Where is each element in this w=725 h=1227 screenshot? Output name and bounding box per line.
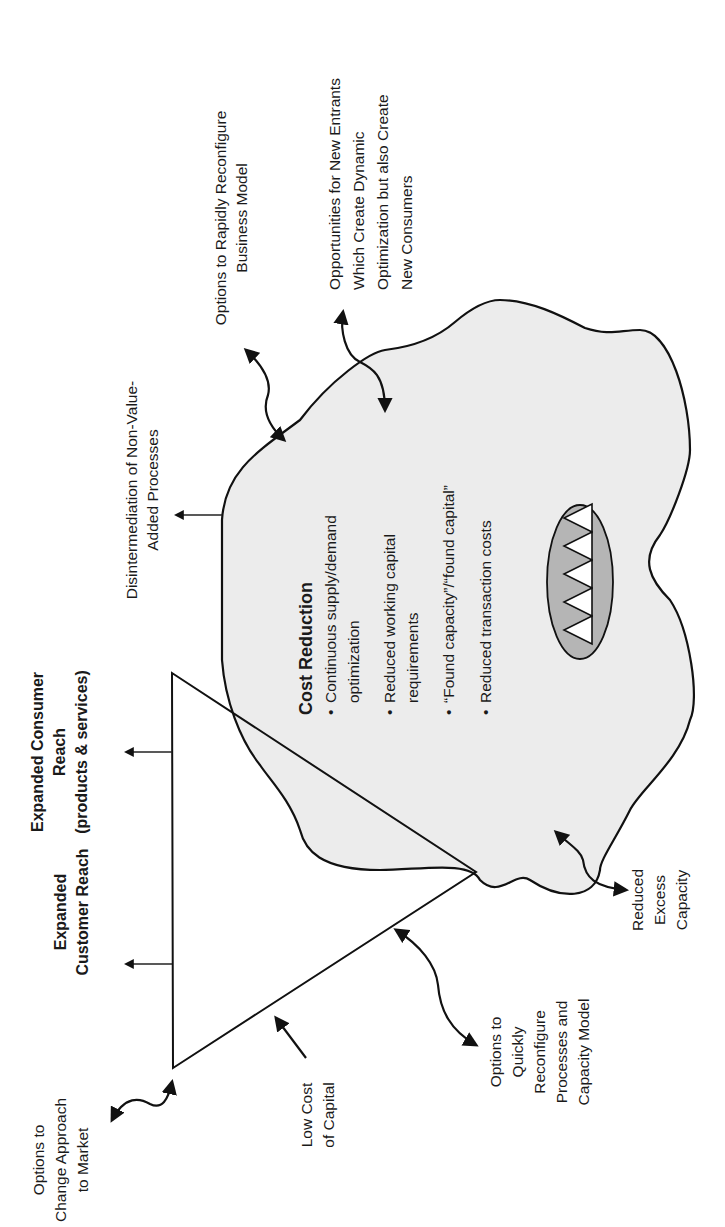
diagram-canvas: Expanded Customer Reach Expanded Consume… — [0, 0, 725, 1227]
label-options-change-approach: Options to Change Approach to Market — [30, 1098, 91, 1222]
cost-reduction-title: Cost Reduction — [296, 582, 316, 715]
svg-text:“Found capacity”/“found capita: “Found capacity”/“found capital” — [440, 485, 457, 703]
svg-text:New Consumers: New Consumers — [398, 175, 415, 290]
arrow-options-change-approach — [112, 1082, 172, 1120]
label-low-cost-capital: Low Cost of Capital — [298, 1082, 337, 1148]
svg-text:•: • — [440, 710, 457, 715]
svg-text:of Capital: of Capital — [320, 1082, 337, 1147]
svg-text:Capacity Model: Capacity Model — [575, 999, 592, 1106]
svg-text:Reduced: Reduced — [629, 869, 646, 931]
label-expanded-customer-reach: Expanded Customer Reach — [52, 848, 91, 975]
svg-text:Capacity: Capacity — [673, 870, 690, 931]
arrow-options-quickly-reconfigure — [396, 930, 476, 1045]
svg-text:Options to Rapidly Reconfigure: Options to Rapidly Reconfigure — [212, 111, 229, 326]
cost-reduction-cloud — [222, 300, 694, 894]
svg-text:Reach: Reach — [51, 728, 68, 776]
svg-text:to Market: to Market — [74, 1127, 91, 1192]
svg-text:Optimization but also Create: Optimization but also Create — [374, 94, 391, 290]
svg-text:Processes and: Processes and — [553, 1001, 570, 1104]
svg-text:Low Cost: Low Cost — [298, 1082, 315, 1147]
svg-text:Reconfigure: Reconfigure — [531, 1010, 548, 1094]
svg-text:Expanded Consumer: Expanded Consumer — [29, 672, 46, 832]
svg-text:Disintermediation of Non-Value: Disintermediation of Non-Value- — [123, 381, 140, 600]
bullet-4: • Reduced transaction costs — [477, 520, 494, 715]
label-options-rapidly-reconfigure: Options to Rapidly Reconfigure Business … — [212, 111, 250, 326]
svg-text:Customer Reach: Customer Reach — [74, 848, 91, 975]
arrow-low-cost-capital — [276, 1018, 306, 1058]
svg-text:Expanded: Expanded — [52, 874, 69, 950]
svg-text:Options to: Options to — [30, 1125, 47, 1196]
label-expanded-consumer-reach: Expanded Consumer Reach (products & serv… — [29, 670, 90, 834]
svg-text:Business Model: Business Model — [233, 163, 250, 272]
svg-text:•: • — [322, 710, 339, 715]
svg-text:Continuous supply/demand: Continuous supply/demand — [322, 515, 339, 703]
svg-text:(products & services): (products & services) — [73, 670, 90, 834]
arrow-options-rapidly-reconfigure — [246, 350, 284, 440]
svg-text:requirements: requirements — [404, 612, 421, 703]
svg-text:Quickly: Quickly — [509, 1026, 526, 1077]
svg-text:•: • — [381, 710, 398, 715]
svg-text:Which Create Dynamic: Which Create Dynamic — [350, 131, 367, 290]
label-reduced-excess-capacity: Reduced Excess Capacity — [629, 869, 690, 931]
svg-text:optimization: optimization — [345, 620, 362, 703]
svg-text:Reduced transaction costs: Reduced transaction costs — [477, 520, 494, 703]
label-options-quickly-reconfigure: Options to Quickly Reconfigure Processes… — [487, 999, 592, 1106]
svg-text:Reduced working capital: Reduced working capital — [381, 534, 398, 703]
label-disintermediation: Disintermediation of Non-Value- Added Pr… — [123, 381, 161, 600]
bullet-3: • “Found capacity”/“found capital” — [440, 485, 457, 715]
svg-text:Opportunities for New Entrants: Opportunities for New Entrants — [326, 78, 343, 290]
svg-text:Excess: Excess — [651, 875, 668, 925]
svg-text:Options to: Options to — [487, 1017, 504, 1088]
svg-text:•: • — [477, 710, 494, 715]
label-opportunities-new-entrants: Opportunities for New Entrants Which Cre… — [326, 78, 415, 290]
svg-text:Change Approach: Change Approach — [52, 1098, 69, 1222]
svg-text:Added Processes: Added Processes — [144, 429, 161, 551]
